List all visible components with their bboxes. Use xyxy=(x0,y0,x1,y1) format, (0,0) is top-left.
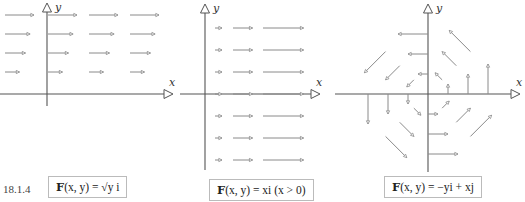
y-axis-arrowhead xyxy=(43,3,52,12)
vector-arrow xyxy=(130,70,145,73)
vector-arrowhead xyxy=(156,13,159,16)
vector-arrowhead xyxy=(445,132,448,135)
vector-arrowhead xyxy=(486,64,489,67)
vector-shaft xyxy=(470,115,491,136)
vector-arrowhead xyxy=(435,112,438,115)
vector-arrow xyxy=(263,48,304,51)
vector-arrow xyxy=(5,70,20,73)
vector-arrowhead xyxy=(106,51,109,54)
vector-arrow xyxy=(263,114,304,117)
vector-arrow xyxy=(386,66,400,80)
vector-arrow xyxy=(263,70,304,73)
vector-arrowhead xyxy=(300,48,303,51)
vector-arrow xyxy=(233,48,253,51)
x-axis-label: x xyxy=(516,76,523,89)
vector-arrowhead xyxy=(219,158,222,161)
vector-arrowhead xyxy=(219,114,222,117)
vector-arrowhead xyxy=(249,70,252,73)
y-axis-label: y xyxy=(435,2,443,15)
vector-arrow xyxy=(233,92,253,95)
vector-arrow xyxy=(215,70,222,73)
vector-arrow xyxy=(5,32,30,35)
vector-arrow xyxy=(456,108,470,122)
vector-shaft xyxy=(449,30,470,51)
vector-arrow xyxy=(446,84,449,94)
x-axis-label: x xyxy=(316,76,323,89)
vector-arrowhead xyxy=(249,92,252,95)
vector-arrowhead xyxy=(115,13,118,16)
vector-arrow xyxy=(89,70,104,73)
y-axis-label: y xyxy=(54,1,62,14)
caption-panel-3: F(x, y) = −yi + xj xyxy=(384,176,482,198)
vector-arrowhead xyxy=(111,32,114,35)
vector-arrow xyxy=(48,32,73,35)
vector-arrowhead xyxy=(386,111,389,114)
y-axis-arrowhead xyxy=(201,4,210,13)
vector-arrow xyxy=(130,13,159,16)
vector-arrowhead xyxy=(418,72,421,75)
vector-arrowhead xyxy=(219,48,222,51)
vector-arrowhead xyxy=(455,152,458,155)
vector-arrowhead xyxy=(300,26,303,29)
vector-arrow xyxy=(215,48,222,51)
vector-arrow xyxy=(89,51,110,54)
vector-arrowhead xyxy=(65,51,68,54)
vector-arrow xyxy=(435,73,442,80)
vector-arrowhead xyxy=(147,51,150,54)
vector-arrow xyxy=(366,94,369,124)
vector-arrowhead xyxy=(249,136,252,139)
vector-arrowhead xyxy=(22,51,25,54)
vector-arrow xyxy=(386,94,389,114)
caption-3-bold: F xyxy=(392,180,400,194)
vector-shaft xyxy=(386,136,407,157)
x-axis-arrowhead xyxy=(311,90,320,99)
vector-arrow xyxy=(130,32,155,35)
vector-arrow xyxy=(408,52,428,55)
vector-arrow xyxy=(48,13,77,16)
y-axis-label: y xyxy=(212,2,220,15)
vector-arrowhead xyxy=(466,74,469,77)
vector-shaft xyxy=(364,52,385,73)
vector-arrow xyxy=(406,94,409,104)
vector-arrowhead xyxy=(398,32,401,35)
vector-arrow xyxy=(215,136,222,139)
vector-arrow xyxy=(442,101,449,108)
vector-field-figure: xy xy xy xyxy=(0,0,525,202)
x-axis-arrowhead xyxy=(511,90,520,99)
vector-arrow xyxy=(418,72,428,75)
vector-arrowhead xyxy=(152,32,155,35)
vector-arrowhead xyxy=(31,13,34,16)
vector-arrow xyxy=(263,26,304,29)
vector-arrowhead xyxy=(219,136,222,139)
vector-arrow xyxy=(364,52,385,73)
x-axis-arrowhead xyxy=(164,90,173,99)
vector-arrowhead xyxy=(249,26,252,29)
vector-arrow xyxy=(48,51,69,54)
vector-arrow xyxy=(215,114,222,117)
vector-arrowhead xyxy=(366,121,369,124)
y-axis-arrowhead xyxy=(424,4,433,13)
vector-arrowhead xyxy=(100,70,103,73)
vector-arrowhead xyxy=(141,70,144,73)
vector-arrow xyxy=(48,70,63,73)
vector-arrow xyxy=(428,132,448,135)
vector-arrowhead xyxy=(249,48,252,51)
vector-arrow xyxy=(263,158,304,161)
vector-arrow xyxy=(398,32,428,35)
vector-arrowhead xyxy=(74,13,77,16)
vector-arrowhead xyxy=(249,114,252,117)
vector-arrow xyxy=(233,158,253,161)
vector-arrowhead xyxy=(300,92,303,95)
vector-arrowhead xyxy=(249,158,252,161)
vector-arrow xyxy=(428,152,458,155)
caption-3-text: (x, y) = −yi + xj xyxy=(400,181,474,193)
vector-arrowhead xyxy=(16,70,19,73)
panel-rotation-field: xy xyxy=(335,2,523,172)
vector-arrowhead xyxy=(27,32,30,35)
vector-arrowhead xyxy=(300,114,303,117)
panel-x-field: xy xyxy=(180,2,323,170)
vector-arrow xyxy=(263,92,304,95)
vector-arrow xyxy=(233,136,253,139)
vector-arrow xyxy=(486,64,489,94)
vector-arrowhead xyxy=(70,32,73,35)
